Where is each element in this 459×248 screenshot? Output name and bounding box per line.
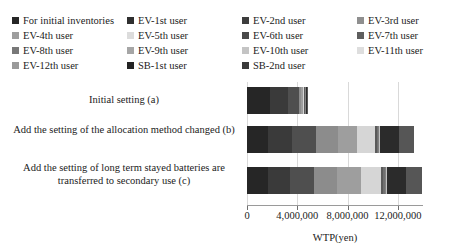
bar-segment[interactable]: [268, 167, 290, 194]
bar-segment[interactable]: [247, 126, 268, 153]
bar-segment[interactable]: [361, 167, 381, 194]
legend-item[interactable]: EV-7th user: [357, 30, 459, 42]
legend-swatch-icon: [12, 62, 19, 69]
axis-tick-label: 0: [244, 210, 249, 221]
bar-segment[interactable]: [316, 126, 338, 153]
legend-swatch-icon: [357, 17, 364, 24]
stacked-bar-chart: For initial inventoriesEV-1st userEV-2nd…: [0, 0, 459, 248]
legend-item-label: EV-2nd user: [253, 15, 305, 27]
legend-swatch-icon: [12, 47, 19, 54]
legend-item-label: EV-7th user: [368, 30, 418, 42]
axis-tick-label: 12,000,000: [374, 210, 421, 221]
legend-swatch-icon: [127, 62, 134, 69]
plot-area: [247, 82, 423, 206]
legend-swatch-icon: [12, 32, 19, 39]
axis-tick-label: 4,000,000: [276, 210, 318, 221]
bar-segment[interactable]: [270, 87, 289, 114]
legend-item[interactable]: EV-5th user: [127, 30, 242, 42]
legend-item-label: EV-11th user: [368, 45, 423, 57]
legend-swatch-icon: [242, 47, 249, 54]
legend-item[interactable]: EV-6th user: [242, 30, 357, 42]
bar-segment[interactable]: [247, 167, 268, 194]
legend-swatch-icon: [242, 32, 249, 39]
bar-segment[interactable]: [268, 126, 292, 153]
bar-segment[interactable]: [337, 167, 360, 194]
bar-segment[interactable]: [357, 126, 375, 153]
legend-item[interactable]: SB-2nd user: [242, 60, 357, 72]
category-label-c: Add the setting of long term stayed batt…: [8, 162, 240, 187]
bar-segment[interactable]: [406, 167, 422, 194]
legend-item[interactable]: EV-8th user: [12, 45, 127, 57]
legend-swatch-icon: [242, 17, 249, 24]
bar-segment[interactable]: [338, 126, 357, 153]
bar-segment[interactable]: [290, 167, 313, 194]
bar-segment[interactable]: [288, 87, 298, 114]
legend-item[interactable]: EV-4th user: [12, 30, 127, 42]
legend-item-label: EV-1st user: [138, 15, 187, 27]
legend-item[interactable]: EV-9th user: [127, 45, 242, 57]
legend-swatch-icon: [12, 17, 19, 24]
legend-item-label: EV-6th user: [253, 30, 303, 42]
legend-item-label: EV-4th user: [23, 30, 73, 42]
legend-item-label: SB-2nd user: [253, 60, 305, 72]
axis-tick-label: 8,000,000: [327, 210, 369, 221]
plot-wrapper: Initial setting (a) Add the setting of t…: [0, 82, 459, 248]
bar-segment[interactable]: [399, 126, 414, 153]
legend-swatch-icon: [127, 17, 134, 24]
legend-item-label: EV-5th user: [138, 30, 188, 42]
category-label-a: Initial setting (a): [8, 94, 240, 107]
legend-item[interactable]: SB-1st user: [127, 60, 242, 72]
value-axis-ticks: 04,000,0008,000,00012,000,000: [247, 206, 423, 218]
bar-segment[interactable]: [292, 126, 316, 153]
bar-segment[interactable]: [380, 126, 399, 153]
legend-item[interactable]: EV-3rd user: [357, 15, 459, 27]
bar-row[interactable]: [247, 87, 307, 114]
category-label-b: Add the setting of the allocation method…: [8, 124, 240, 137]
legend-item[interactable]: EV-12th user: [12, 60, 127, 72]
legend-item-label: EV-9th user: [138, 45, 188, 57]
bar-segment[interactable]: [314, 167, 338, 194]
legend-item[interactable]: EV-11th user: [357, 45, 459, 57]
legend-item[interactable]: EV-2nd user: [242, 15, 357, 27]
legend-item-label: EV-12th user: [23, 60, 78, 72]
chart-legend: For initial inventoriesEV-1st userEV-2nd…: [12, 13, 452, 73]
legend-item[interactable]: EV-1st user: [127, 15, 242, 27]
legend-swatch-icon: [357, 32, 364, 39]
legend-item-label: EV-8th user: [23, 45, 73, 57]
legend-swatch-icon: [127, 47, 134, 54]
bar-segment[interactable]: [387, 167, 406, 194]
legend-item-label: EV-3rd user: [368, 15, 419, 27]
legend-swatch-icon: [357, 47, 364, 54]
legend-item[interactable]: For initial inventories: [12, 15, 127, 27]
legend-item-label: For initial inventories: [23, 15, 114, 27]
legend-swatch-icon: [242, 62, 249, 69]
bar-segment[interactable]: [247, 87, 270, 114]
x-axis-title: WTP(yen): [247, 232, 423, 243]
legend-item-label: SB-1st user: [138, 60, 187, 72]
legend-item-label: EV-10th user: [253, 45, 308, 57]
legend-swatch-icon: [127, 32, 134, 39]
bar-row[interactable]: [247, 167, 422, 194]
bar-row[interactable]: [247, 126, 414, 153]
category-axis-labels: Initial setting (a) Add the setting of t…: [8, 82, 244, 206]
legend-item[interactable]: EV-10th user: [242, 45, 357, 57]
